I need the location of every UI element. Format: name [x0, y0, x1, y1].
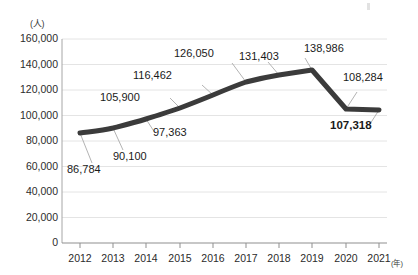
y-tick-label-120000: 120,000 — [2, 83, 58, 95]
data-label-2021: 107,318 — [330, 119, 372, 131]
data-label-2014: 97,363 — [153, 126, 187, 138]
data-label-2017: 126,050 — [174, 47, 214, 59]
y-tick-label-80000: 80,000 — [2, 134, 58, 146]
data-label-2012: 86,784 — [67, 163, 101, 175]
y-tick-label-60000: 60,000 — [2, 160, 58, 172]
data-label-2016: 116,462 — [133, 69, 172, 81]
y-tick-label-160000: 160,000 — [2, 32, 58, 44]
line-chart: (人) (年) 160,000 140,000 120,000 100,000 … — [0, 0, 418, 275]
scan-artifact — [367, 3, 370, 10]
chart-canvas — [0, 0, 418, 275]
data-label-2020: 108,284 — [343, 71, 383, 83]
y-tick-label-140000: 140,000 — [2, 58, 58, 70]
data-label-2013: 90,100 — [113, 150, 147, 162]
y-tick-label-100000: 100,000 — [2, 109, 58, 121]
data-label-2019: 138,986 — [304, 42, 344, 54]
data-label-2015: 105,900 — [100, 91, 140, 103]
y-axis-unit: (人) — [30, 17, 44, 30]
data-label-2018: 131,403 — [239, 50, 279, 62]
label-leader-lines — [80, 58, 379, 163]
y-tick-label-0: 0 — [2, 236, 58, 248]
x-tick-label-2021: 2021 — [359, 252, 399, 264]
y-tick-label-40000: 40,000 — [2, 185, 58, 197]
x-axis-ticks — [80, 243, 379, 248]
y-tick-label-20000: 20,000 — [2, 211, 58, 223]
